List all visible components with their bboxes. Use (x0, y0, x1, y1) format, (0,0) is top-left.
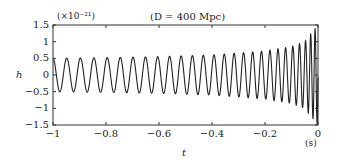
x-tick-label: −0.6 (139, 129, 179, 139)
x-unit-label: (s) (305, 139, 317, 148)
y-tick-label: 1 (9, 37, 49, 47)
x-tick-label: 0 (298, 129, 338, 139)
y-tick-label: −1 (9, 103, 49, 113)
scale-note: (×10⁻²¹) (57, 12, 95, 21)
x-tick-label: −1 (33, 129, 73, 139)
chart-title: (D = 400 Mpc) (150, 12, 225, 22)
x-tick-label: −0.2 (245, 129, 285, 139)
x-axis-label: t (182, 148, 186, 158)
x-tick-label: −0.8 (86, 129, 126, 139)
waveform-line (53, 29, 318, 124)
y-tick-label: −0.5 (9, 87, 49, 97)
axis-ticks (53, 25, 318, 125)
x-tick-label: −0.4 (192, 129, 232, 139)
y-tick-label: 0 (9, 70, 49, 80)
y-tick-label: 1.5 (9, 20, 49, 30)
plot-frame (53, 25, 318, 125)
y-tick-label: 0.5 (9, 53, 49, 63)
